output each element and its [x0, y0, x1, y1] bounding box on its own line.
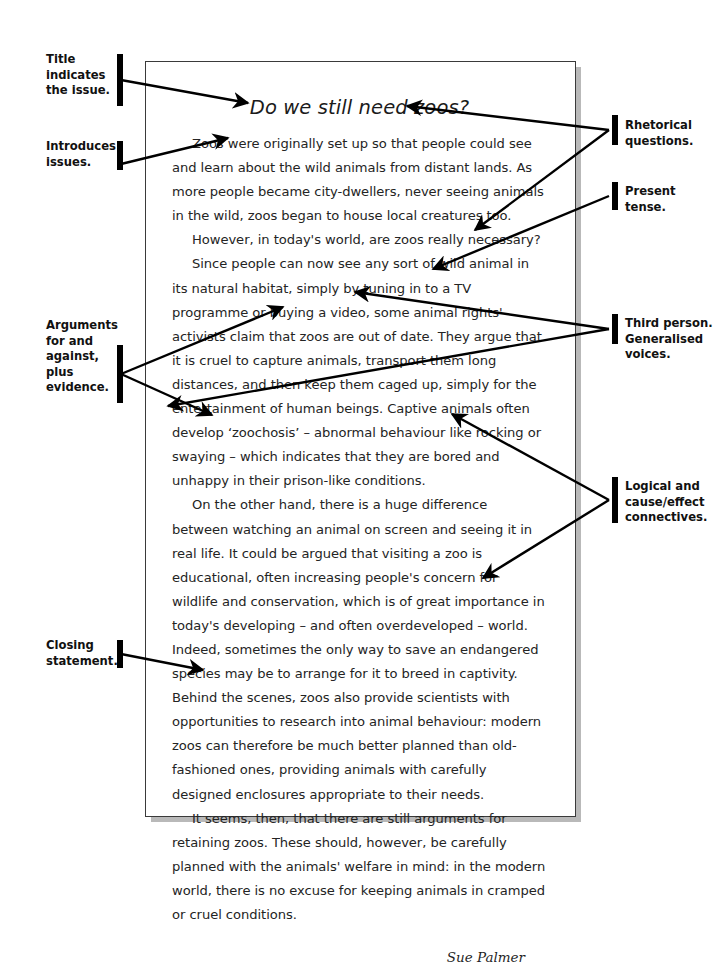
document-paragraph-4: On the other hand, there is a huge diffe… — [172, 493, 547, 806]
annotation-marker-introduces-issues — [117, 141, 123, 170]
document-paragraph-5: It seems, then, that there are still arg… — [172, 807, 547, 927]
document-title: Do we still need zoos? — [172, 96, 547, 119]
annotation-arguments-for-against: Arguments for and against, plus evidence… — [46, 318, 124, 396]
annotation-present-tense: Present tense. — [625, 184, 715, 215]
annotation-introduces-issues: Introduces issues. — [46, 139, 122, 170]
document-page-content: Do we still need zoos? Zoos were origina… — [146, 62, 575, 816]
annotation-marker-logical-cause-effect-connectives — [612, 477, 618, 523]
annotation-marker-rhetorical-questions — [612, 115, 618, 145]
annotation-marker-title-indicates-issue — [117, 54, 123, 106]
document-paragraph-3: Since people can now see any sort of wil… — [172, 252, 547, 493]
annotation-title-indicates-issue: Title indicates the issue. — [46, 52, 116, 99]
annotation-marker-third-person-generalised-voices — [612, 314, 618, 344]
document-paragraph-2: However, in today's world, are zoos real… — [172, 228, 547, 252]
annotation-marker-closing-statement — [117, 640, 123, 668]
annotation-rhetorical-questions: Rhetorical questions. — [625, 118, 715, 149]
annotation-marker-present-tense — [612, 182, 618, 210]
annotation-logical-cause-effect-connectives: Logical and cause/effect connectives. — [625, 479, 721, 526]
annotation-third-person-generalised-voices: Third person. Generalised voices. — [625, 316, 721, 363]
annotation-closing-statement: Closing statement. — [46, 638, 122, 669]
document-page: Do we still need zoos? Zoos were origina… — [145, 61, 576, 817]
document-author-signature: Sue Palmer — [172, 949, 547, 965]
document-paragraph-1: Zoos were originally set up so that peop… — [172, 132, 547, 228]
annotation-marker-arguments-for-against — [117, 345, 123, 403]
